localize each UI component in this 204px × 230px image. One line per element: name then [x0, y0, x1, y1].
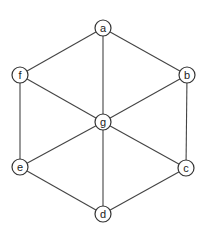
edge-c-d: [103, 168, 186, 214]
edge-b-c: [186, 75, 187, 168]
node-label: d: [100, 208, 106, 220]
node-g: g: [95, 114, 111, 130]
edge-f-a: [20, 28, 103, 75]
node-c: c: [178, 160, 194, 176]
edge-e-g: [20, 122, 103, 167]
edge-c-g: [103, 122, 186, 168]
node-f: f: [12, 67, 28, 83]
node-a: a: [95, 20, 111, 36]
node-label: a: [100, 22, 107, 34]
node-d: d: [95, 206, 111, 222]
node-b: b: [179, 67, 195, 83]
node-e: e: [12, 159, 28, 175]
edge-d-e: [20, 167, 103, 214]
node-label: b: [184, 69, 190, 81]
node-label: e: [17, 161, 23, 173]
edge-b-g: [103, 75, 187, 122]
node-label: c: [183, 162, 189, 174]
node-label: g: [100, 116, 106, 128]
edge-f-g: [20, 75, 103, 122]
edge-a-b: [103, 28, 187, 75]
graph-diagram: abcdefg: [0, 0, 204, 230]
